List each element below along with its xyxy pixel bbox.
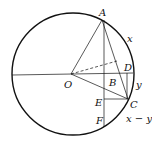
label-D: D (123, 62, 132, 73)
circle-diagram: A O B C D E F x y x − y (0, 0, 152, 144)
label-O: O (64, 79, 72, 90)
label-B: B (108, 77, 116, 88)
label-arc-x-minus-y: x − y (126, 113, 152, 124)
line-OA (71, 20, 102, 74)
label-arc-x: x (127, 33, 133, 44)
label-F: F (95, 115, 104, 126)
line-OC (71, 74, 128, 99)
label-E: E (94, 97, 103, 108)
label-A: A (98, 7, 106, 18)
dashed-line-O (71, 61, 117, 74)
label-C: C (130, 99, 138, 110)
label-arc-y: y (135, 79, 142, 90)
